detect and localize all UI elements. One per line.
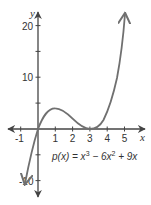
x-axis-label: x <box>139 131 145 143</box>
y-tick-label: 10 <box>22 72 34 83</box>
x-tick-label: 1 <box>53 133 59 144</box>
x-tick-label: 3 <box>87 133 93 144</box>
x-tick-label: -1 <box>15 133 24 144</box>
y-tick-label: 20 <box>22 21 34 32</box>
cubic-function-graph: -1 1 2 3 4 5 20 10 -10 y x p(x) = x3 − 6… <box>0 0 151 205</box>
x-tick-label: 5 <box>122 133 128 144</box>
y-axis-label: y <box>29 7 35 19</box>
x-tick-label: 2 <box>70 133 76 144</box>
function-formula: p(x) = x3 − 6x2 + 9x <box>51 150 138 162</box>
x-tick-label: 4 <box>104 133 110 144</box>
